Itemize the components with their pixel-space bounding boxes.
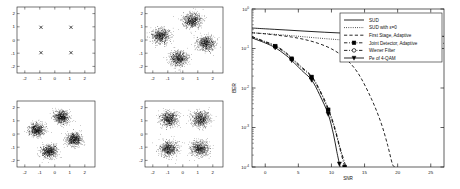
- tick-label: -2: [151, 76, 155, 81]
- x-axis-label: SNR: [343, 176, 353, 181]
- tick-label: -1: [38, 170, 42, 175]
- figure-canvas: -2 -1 0 1 2 2 1 0 -1 -2: [0, 0, 460, 189]
- x-tick-label: 20: [395, 170, 400, 175]
- chart-legend[interactable]: SUDSUD with ε=0First Stage, AdaptiveJoin…: [340, 13, 442, 62]
- data-point-marker: [343, 165, 347, 169]
- tick-label: -2: [151, 170, 155, 175]
- legend-label: Wiener Filter: [369, 48, 396, 53]
- panel-partially-equalized: -2 -1 0 1 2 2 1 0 -1 -2: [0, 96, 112, 189]
- tick-label: 2: [13, 11, 16, 16]
- tick-label: 0: [182, 170, 185, 175]
- tick-label: 1: [197, 170, 200, 175]
- tick-label: -2: [23, 76, 27, 81]
- tick-label: -1: [139, 145, 143, 150]
- tick-label: 1: [69, 76, 72, 81]
- y-tick-labels: 10010-110-210-310-4: [241, 6, 249, 170]
- tick-label: -2: [23, 170, 27, 175]
- tick-label: 0: [141, 38, 144, 43]
- tick-label: 1: [69, 170, 72, 175]
- x-tick-labels: -2 -1 0 1 2: [151, 76, 215, 81]
- ber-chart-svg: 10010-110-210-310-4 0510152025 SNR BER S…: [228, 0, 460, 189]
- tick-label: 1: [13, 118, 16, 123]
- legend-label: First Stage, Adaptive: [369, 33, 412, 38]
- scatter-rotated-svg: -2 -1 0 1 2 2 1 0 -1 -2: [128, 2, 240, 92]
- tick-label: -2: [11, 158, 15, 163]
- x-tick-label: 25: [428, 170, 433, 175]
- y-axis-label: BER: [232, 83, 237, 93]
- tick-label: 1: [13, 24, 16, 29]
- legend-item[interactable]: Joint Detector, Adaptive: [344, 41, 418, 46]
- panel-equalized-aligned: -2 -1 0 1 2 2 1 0 -1 -2: [128, 96, 240, 189]
- panel-received-rotated: -2 -1 0 1 2 2 1 0 -1 -2: [128, 2, 240, 92]
- y-tick-label: 10-4: [241, 164, 249, 170]
- y-tick-label: 10-3: [241, 124, 249, 130]
- tick-label: 2: [212, 76, 215, 81]
- scatter-ideal-svg: -2 -1 0 1 2 2 1 0 -1 -2: [0, 2, 112, 92]
- x-tick-labels: -2 -1 0 1 2: [151, 170, 215, 175]
- data-point-marker: [352, 41, 356, 45]
- tick-label: 2: [141, 11, 144, 16]
- y-tick-labels: 2 1 0 -1 -2: [11, 105, 15, 163]
- tick-label: 0: [13, 38, 16, 43]
- tick-label: 2: [13, 105, 16, 110]
- tick-label: 0: [13, 132, 16, 137]
- tick-label: 1: [141, 118, 144, 123]
- tick-label: 0: [141, 132, 144, 137]
- scatter-partial-svg: -2 -1 0 1 2 2 1 0 -1 -2: [0, 96, 112, 189]
- x-tick-label: 0: [264, 170, 267, 175]
- x-tick-labels: 0510152025: [264, 170, 434, 175]
- tick-label: -2: [11, 64, 15, 69]
- x-tick-label: 15: [362, 170, 367, 175]
- y-tick-label: 10-2: [241, 85, 249, 91]
- y-tick-label: 100: [242, 6, 249, 12]
- legend-label: Joint Detector, Adaptive: [369, 41, 418, 46]
- plot-frame: [145, 101, 223, 167]
- tick-label: -2: [139, 64, 143, 69]
- y-tick-labels: 2 1 0 -1 -2: [139, 11, 143, 69]
- scatter-aligned-svg: -2 -1 0 1 2 2 1 0 -1 -2: [128, 96, 240, 189]
- plot-frame: [17, 101, 95, 167]
- tick-label: -2: [139, 158, 143, 163]
- tick-label: -1: [166, 170, 170, 175]
- legend-label: SUD with ε=0: [369, 25, 397, 30]
- panel-ber-vs-snr: 10010-110-210-310-4 0510152025 SNR BER S…: [228, 0, 460, 189]
- data-point-marker: [352, 49, 356, 53]
- x-tick-labels: -2 -1 0 1 2: [23, 170, 87, 175]
- tick-label: -1: [139, 51, 143, 56]
- tick-label: -1: [166, 76, 170, 81]
- tick-label: 2: [84, 170, 87, 175]
- panel-ideal-constellation: -2 -1 0 1 2 2 1 0 -1 -2: [0, 2, 112, 92]
- tick-label: 0: [182, 76, 185, 81]
- tick-label: 0: [54, 170, 57, 175]
- x-tick-labels: -2 -1 0 1 2: [23, 76, 87, 81]
- y-tick-labels: 2 1 0 -1 -2: [139, 105, 143, 163]
- legend-label: SUD: [369, 18, 379, 23]
- x-tick-label: 5: [297, 170, 300, 175]
- tick-label: 1: [141, 24, 144, 29]
- tick-label: 2: [141, 105, 144, 110]
- tick-label: 2: [212, 170, 215, 175]
- y-tick-label: 10-1: [241, 45, 249, 51]
- tick-label: 0: [54, 76, 57, 81]
- legend-label: Pe of 4-QAM: [369, 56, 396, 61]
- tick-label: -1: [38, 76, 42, 81]
- tick-label: 2: [84, 76, 87, 81]
- tick-label: 1: [197, 76, 200, 81]
- y-tick-labels: 2 1 0 -1 -2: [11, 11, 15, 69]
- plot-frame: [17, 7, 95, 73]
- x-tick-label: 10: [329, 170, 334, 175]
- tick-label: -1: [11, 145, 15, 150]
- tick-label: -1: [11, 51, 15, 56]
